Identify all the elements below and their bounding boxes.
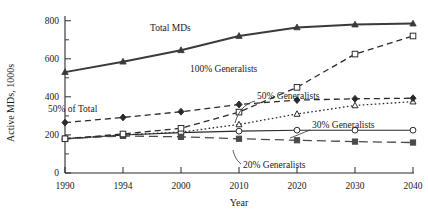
annotation-20-generalists: 20% Generalists xyxy=(243,160,306,170)
x-ticks xyxy=(65,167,413,173)
x-tick-labels: 1990 1994 2000 2010 2020 2030 2040 xyxy=(56,181,423,191)
y-tick-label-800: 800 xyxy=(45,16,60,26)
data-point-circle-open xyxy=(236,128,242,134)
data-point-square-open xyxy=(62,136,68,142)
data-point-square-open xyxy=(352,51,358,57)
data-point-square-filled xyxy=(236,136,241,141)
data-point-diamond-filled xyxy=(178,108,184,115)
chart-container: Active MDs, 1000s 800 600 400 200 0 xyxy=(0,0,428,223)
x-tick-label-2030: 2030 xyxy=(346,181,365,191)
x-tick-label-2020: 2020 xyxy=(288,181,307,191)
data-point-triangle-up-open xyxy=(294,111,300,117)
data-point-square-open xyxy=(178,125,184,131)
data-point-square-open xyxy=(294,85,300,91)
x-axis-title: Year xyxy=(230,197,249,208)
data-point-diamond-filled xyxy=(352,95,358,102)
x-tick-label-2000: 2000 xyxy=(172,181,191,191)
x-tick-label-2040: 2040 xyxy=(404,181,423,191)
data-point-diamond-filled xyxy=(62,119,68,126)
data-point-diamond-filled xyxy=(410,95,416,102)
y-tick-label-0: 0 xyxy=(54,168,59,178)
leader-line-20-generalists xyxy=(233,150,241,164)
annotation-total-mds: Total MDs xyxy=(150,23,191,33)
x-tick-label-1994: 1994 xyxy=(114,181,133,191)
y-tick-label-200: 200 xyxy=(45,130,60,140)
data-point-circle-open xyxy=(410,127,416,133)
y-axis-title: Active MDs, 1000s xyxy=(5,64,16,142)
data-point-triangle-up-open xyxy=(352,102,358,108)
x-tick-label-1990: 1990 xyxy=(56,181,75,191)
data-point-square-filled xyxy=(178,134,183,139)
line-chart: Active MDs, 1000s 800 600 400 200 0 xyxy=(0,0,428,223)
data-point-diamond-filled xyxy=(236,101,242,108)
annotation-50-generalists: 50% Generalists xyxy=(257,91,320,101)
annotation-30-generalists: 30% Generalists xyxy=(312,120,375,130)
y-major-ticks xyxy=(65,21,71,173)
y-tick-labels: 800 600 400 200 0 xyxy=(45,16,60,178)
y-tick-label-600: 600 xyxy=(45,54,60,64)
y-tick-label-400: 400 xyxy=(45,92,60,102)
data-point-square-open xyxy=(410,33,416,39)
data-point-square-open xyxy=(120,131,126,137)
x-tick-label-2010: 2010 xyxy=(230,181,249,191)
data-point-circle-open xyxy=(294,127,300,133)
data-point-square-filled xyxy=(294,138,299,143)
annotation-50-of-total: 50% of Total xyxy=(48,104,98,114)
data-point-square-filled xyxy=(410,140,415,145)
data-point-diamond-filled xyxy=(120,114,126,121)
data-point-square-filled xyxy=(352,139,357,144)
annotation-100-generalists: 100% Generalists xyxy=(190,64,258,74)
